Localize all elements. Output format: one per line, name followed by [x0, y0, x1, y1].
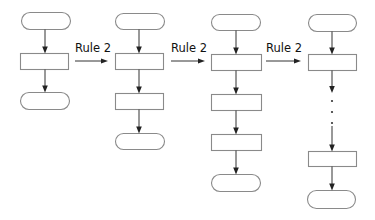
rule-label-0: Rule 2 [75, 43, 111, 55]
flowchart-diagram: Rule 2Rule 2Rule 2 [0, 0, 375, 220]
connector-col-3-3-arrowhead-icon [233, 168, 239, 175]
terminator-node-col-1-0 [22, 13, 71, 30]
connector-col-4-2-arrowhead-icon [329, 184, 335, 191]
ellipsis-dot-2 [331, 122, 333, 124]
process-node-col-3-1 [212, 55, 262, 71]
connector-col-1-0-arrowhead-icon [42, 47, 48, 54]
process-node-col-2-2 [116, 94, 164, 110]
connector-col-1-1-arrowhead-icon [42, 86, 48, 93]
connector-col-3-1-arrowhead-icon [233, 88, 239, 95]
connector-col-4-1a-arrowhead-icon [329, 86, 335, 93]
ellipsis-dot-1 [331, 111, 333, 113]
diagram-svg [0, 0, 375, 220]
terminator-node-col-4-0 [309, 15, 357, 32]
terminator-node-col-2-0 [116, 14, 165, 30]
connector-col-2-0-arrowhead-icon [136, 47, 142, 54]
rule-arrow-1-arrowhead-icon [198, 58, 205, 63]
terminator-node-col-4-3 [308, 191, 356, 209]
rule-arrow-0-arrowhead-icon [101, 58, 108, 63]
process-node-col-2-1 [116, 54, 164, 70]
process-node-col-4-2 [309, 152, 357, 167]
connector-col-4-0-arrowhead-icon [329, 48, 335, 55]
process-node-col-3-3 [212, 135, 262, 151]
rule-label-2: Rule 2 [266, 43, 302, 55]
rule-label-1: Rule 2 [171, 43, 207, 55]
process-node-col-1-1 [21, 54, 69, 70]
connector-col-2-1-arrowhead-icon [136, 87, 142, 94]
connector-col-4-1b-arrowhead-icon [329, 145, 335, 152]
connector-col-3-2-arrowhead-icon [233, 128, 239, 135]
connector-col-3-0-arrowhead-icon [233, 48, 239, 55]
process-node-col-4-1 [309, 55, 357, 71]
rule-arrow-2-arrowhead-icon [294, 58, 301, 63]
process-node-col-3-2 [212, 95, 262, 111]
ellipsis-dot-0 [331, 100, 333, 102]
terminator-node-col-3-4 [212, 175, 261, 192]
terminator-node-col-1-2 [21, 93, 70, 110]
connector-col-2-2-arrowhead-icon [136, 127, 142, 134]
terminator-node-col-2-3 [116, 134, 165, 150]
terminator-node-col-3-0 [212, 15, 261, 31]
